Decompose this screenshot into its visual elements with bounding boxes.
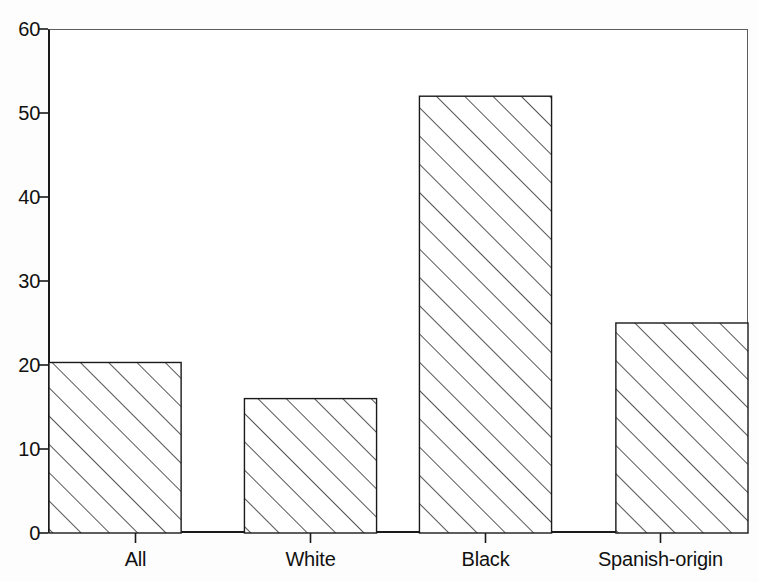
- chart-canvas: [0, 0, 758, 582]
- x-tick-label-white: White: [285, 548, 335, 570]
- y-tick-label: 60: [2, 19, 40, 39]
- y-axis-ticks: [39, 29, 48, 533]
- y-tick-label: 40: [2, 187, 40, 207]
- bar-hatch: [244, 399, 376, 533]
- y-tick-label: 20: [2, 355, 40, 375]
- bar-hatch: [616, 323, 748, 533]
- y-tick-label: 50: [2, 103, 40, 123]
- y-tick-label: 0: [2, 523, 40, 543]
- bar-hatch: [49, 362, 181, 533]
- x-tick-label-black: Black: [462, 548, 510, 570]
- bars-group: [49, 96, 748, 533]
- x-axis-ticks: [136, 533, 661, 543]
- bar-chart-figure: 0102030405060 AllWhiteBlackSpanish-origi…: [0, 0, 758, 582]
- bar-hatch: [419, 96, 551, 533]
- x-tick-label-all: All: [125, 548, 147, 570]
- y-tick-label: 10: [2, 439, 40, 459]
- y-tick-label: 30: [2, 271, 40, 291]
- x-tick-label-spanish-origin: Spanish-origin: [598, 548, 723, 570]
